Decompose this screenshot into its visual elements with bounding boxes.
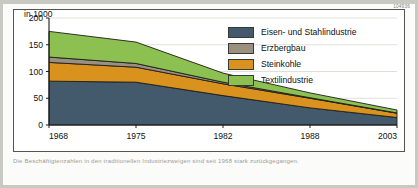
- svg-text:100: 100: [29, 67, 44, 77]
- screenshot-root: in 1000 104936 0501001502001968197519821…: [0, 0, 418, 188]
- legend-label-textilindustrie: Textilindustrie: [261, 75, 313, 86]
- svg-text:150: 150: [29, 40, 44, 50]
- legend-item-eisen-und-stahlindustrie[interactable]: Eisen- und Stahlindustrie: [228, 26, 357, 39]
- legend-label-eisen-und-stahlindustrie: Eisen- und Stahlindustrie: [261, 27, 357, 38]
- svg-text:1982: 1982: [213, 131, 232, 141]
- svg-text:1988: 1988: [300, 131, 319, 141]
- legend-item-erzbergbau[interactable]: Erzbergbau: [228, 42, 357, 55]
- legend-label-steinkohle: Steinkohle: [261, 59, 301, 70]
- legend-item-textilindustrie[interactable]: Textilindustrie: [228, 74, 357, 87]
- svg-text:2003: 2003: [378, 131, 397, 141]
- legend-swatch-eisen-und-stahlindustrie: [228, 27, 254, 38]
- svg-text:200: 200: [29, 13, 44, 23]
- chart-legend: Eisen- und Stahlindustrie Erzbergbau Ste…: [228, 26, 357, 87]
- svg-text:0: 0: [38, 120, 43, 130]
- svg-text:50: 50: [33, 93, 43, 103]
- legend-label-erzbergbau: Erzbergbau: [261, 43, 305, 54]
- svg-text:1968: 1968: [49, 131, 68, 141]
- svg-text:1975: 1975: [126, 131, 145, 141]
- legend-item-steinkohle[interactable]: Steinkohle: [228, 58, 357, 71]
- legend-swatch-textilindustrie: [228, 75, 254, 86]
- legend-swatch-steinkohle: [228, 59, 254, 70]
- figure-caption: Die Beschäftigtenzahlen in den tradition…: [13, 158, 405, 164]
- legend-swatch-erzbergbau: [228, 43, 254, 54]
